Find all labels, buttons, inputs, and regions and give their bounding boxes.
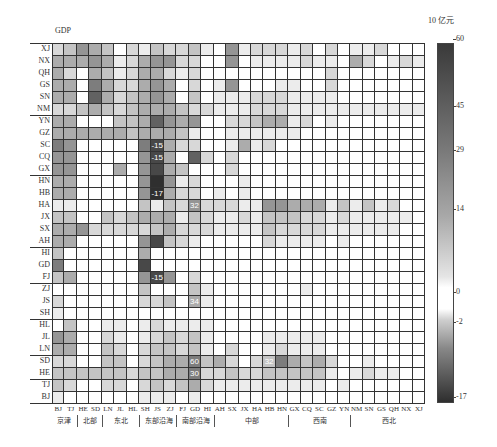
heatmap-cell <box>276 224 288 236</box>
heatmap-cell <box>388 236 400 248</box>
heatmap-cell <box>375 80 387 92</box>
heatmap-cell <box>375 320 387 332</box>
heatmap-cell <box>263 392 275 404</box>
heatmap-cell <box>413 260 425 272</box>
heatmap-cell <box>89 212 101 224</box>
column-label: CQ <box>301 405 313 413</box>
heatmap-cell <box>189 56 201 68</box>
heatmap-cell <box>189 224 201 236</box>
heatmap-cell <box>77 344 89 356</box>
row-label: GS <box>18 79 50 91</box>
heatmap-cell <box>263 236 275 248</box>
heatmap-cell <box>77 68 89 80</box>
heatmap-cell <box>239 140 251 152</box>
heatmap-cell <box>214 92 226 104</box>
heatmap-cell <box>363 284 375 296</box>
heatmap-cell <box>114 284 126 296</box>
heatmap-cell <box>363 332 375 344</box>
heatmap-cell <box>350 260 362 272</box>
heatmap-cell <box>114 140 126 152</box>
row-label: SX <box>18 223 50 235</box>
heatmap-cell <box>313 380 325 392</box>
heatmap-cell <box>64 68 76 80</box>
heatmap-cell <box>263 116 275 128</box>
heatmap-cell <box>313 140 325 152</box>
colorbar-tick-label: -2 <box>456 317 463 326</box>
column-group-label: 东部沿海 <box>139 415 177 427</box>
heatmap-cell <box>338 236 350 248</box>
heatmap-cell <box>338 200 350 212</box>
heatmap-cell <box>239 392 251 404</box>
heatmap-cell <box>326 380 338 392</box>
heatmap-cell <box>413 296 425 308</box>
heatmap-cell <box>127 344 139 356</box>
heatmap-cell <box>375 224 387 236</box>
row-group-divider <box>30 247 52 248</box>
heatmap-cell <box>164 344 176 356</box>
heatmap-cell <box>52 332 64 344</box>
heatmap-cell <box>189 68 201 80</box>
heatmap-cell <box>301 212 313 224</box>
heatmap-cell <box>239 44 251 56</box>
heatmap-cell <box>89 368 101 380</box>
heatmap-cell <box>388 152 400 164</box>
column-label: ZJ <box>164 405 176 413</box>
heatmap-cell <box>388 212 400 224</box>
heatmap-cell <box>375 176 387 188</box>
heatmap-cell <box>139 236 151 248</box>
row-label: XJ <box>18 43 50 55</box>
heatmap-cell <box>127 272 139 284</box>
heatmap-cell <box>89 128 101 140</box>
heatmap-cell <box>413 224 425 236</box>
heatmap-cell <box>64 344 76 356</box>
heatmap-cell <box>239 356 251 368</box>
heatmap-cell <box>151 284 164 296</box>
heatmap-cell <box>127 308 139 320</box>
column-label: HL <box>127 405 139 413</box>
heatmap-cell <box>301 92 313 104</box>
heatmap-cell <box>400 200 412 212</box>
heatmap-cell <box>375 380 387 392</box>
row-group-divider <box>30 175 52 176</box>
heatmap-cell <box>201 164 213 176</box>
heatmap-cell <box>388 332 400 344</box>
heatmap-cell <box>413 356 425 368</box>
heatmap-cell <box>263 164 275 176</box>
heatmap-cell <box>263 152 275 164</box>
heatmap-cell <box>251 116 263 128</box>
heatmap-cell <box>400 92 412 104</box>
row-label: GD <box>18 259 50 271</box>
heatmap-cell <box>400 56 412 68</box>
heatmap-cell <box>363 368 375 380</box>
heatmap-cell <box>164 92 176 104</box>
heatmap-cell <box>139 128 151 140</box>
heatmap-cell <box>400 80 412 92</box>
heatmap-cell <box>64 128 76 140</box>
heatmap-cell <box>127 140 139 152</box>
heatmap-cell <box>288 224 300 236</box>
row-label: TJ <box>18 379 50 391</box>
heatmap-cell <box>114 392 126 404</box>
heatmap-cell <box>288 164 300 176</box>
heatmap-cell <box>151 332 164 344</box>
heatmap-cell <box>89 188 101 200</box>
heatmap-cell <box>164 212 176 224</box>
heatmap-cell <box>114 344 126 356</box>
heatmap-cell <box>164 308 176 320</box>
row-label: AH <box>18 235 50 247</box>
heatmap-cell <box>363 308 375 320</box>
heatmap-cell <box>263 200 275 212</box>
heatmap-cell <box>326 284 338 296</box>
heatmap-cell <box>288 44 300 56</box>
heatmap-cell <box>189 380 201 392</box>
heatmap-cell <box>288 392 300 404</box>
heatmap-cell <box>52 176 64 188</box>
heatmap-cell <box>276 272 288 284</box>
heatmap-cell <box>413 176 425 188</box>
heatmap-cell <box>201 92 213 104</box>
heatmap-cell <box>64 116 76 128</box>
heatmap-cell <box>313 332 325 344</box>
heatmap-cell <box>363 356 375 368</box>
heatmap-cell <box>413 320 425 332</box>
heatmap-cell <box>102 344 114 356</box>
